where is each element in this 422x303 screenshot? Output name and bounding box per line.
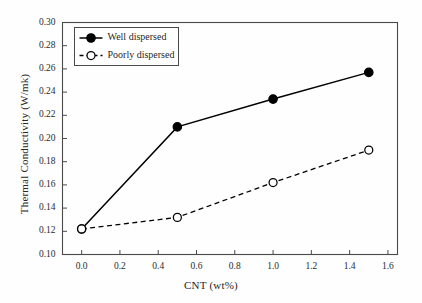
x-tick-label: 1.6	[371, 261, 405, 271]
plot-area	[0, 0, 422, 303]
y-tick-label: 0.18	[22, 156, 56, 166]
series-line	[82, 72, 369, 229]
y-tick-label: 0.14	[22, 202, 56, 212]
y-tick-label: 0.16	[22, 179, 56, 189]
series-line	[82, 150, 369, 229]
y-tick-label: 0.10	[22, 249, 56, 259]
data-point-marker	[269, 95, 277, 103]
data-point-marker	[365, 68, 373, 76]
data-point-marker	[173, 213, 181, 221]
y-tick-label: 0.20	[22, 133, 56, 143]
x-tick-label: 0.2	[103, 261, 137, 271]
legend-entry-label: Poorly dispersed	[108, 49, 175, 60]
legend-entry-label: Well dispersed	[108, 31, 167, 42]
data-point-marker	[78, 225, 86, 233]
x-tick-label: 1.4	[333, 261, 367, 271]
chart-figure: CNT (wt%) Thermal Conductivity (W/mk) 0.…	[0, 0, 422, 303]
x-tick-label: 0.4	[141, 261, 175, 271]
x-tick-label: 0.6	[180, 261, 214, 271]
x-tick-label: 1.0	[256, 261, 290, 271]
y-tick-label: 0.22	[22, 109, 56, 119]
y-tick-label: 0.24	[22, 86, 56, 96]
data-series-group	[77, 68, 373, 233]
x-tick-label: 0.0	[65, 261, 99, 271]
data-point-marker	[269, 179, 277, 187]
x-tick-label: 1.2	[294, 261, 328, 271]
y-tick-label: 0.30	[22, 17, 56, 27]
data-point-marker	[365, 146, 373, 154]
y-tick-label: 0.28	[22, 40, 56, 50]
y-tick-label: 0.12	[22, 225, 56, 235]
y-tick-label: 0.26	[22, 63, 56, 73]
x-tick-label: 0.8	[218, 261, 252, 271]
x-axis-title: CNT (wt%)	[0, 279, 422, 291]
data-point-marker	[173, 123, 181, 131]
